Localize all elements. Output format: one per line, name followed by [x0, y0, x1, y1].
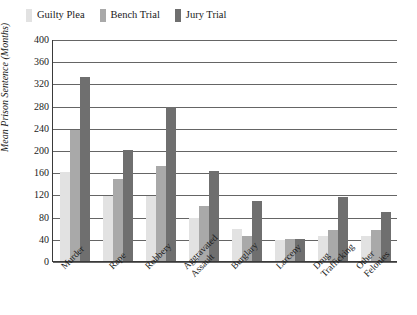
gridline	[53, 262, 397, 263]
x-label-slot: Robbery	[138, 264, 181, 275]
bar	[113, 179, 123, 261]
y-tick-label: 320	[34, 79, 49, 89]
y-tick-label: 400	[34, 35, 49, 45]
legend-label: Jury Trial	[186, 10, 227, 21]
legend-swatch-icon	[175, 9, 181, 22]
legend-item-guilty-plea: Guilty Plea	[26, 9, 85, 22]
x-label-slot: Larceny	[268, 264, 311, 275]
x-label-slot: Rape	[95, 264, 138, 275]
legend-item-jury-trial: Jury Trial	[175, 9, 227, 22]
bar-group	[96, 40, 139, 261]
x-label-slot: Drug Trafficking	[311, 264, 354, 285]
bar-groups	[53, 40, 397, 261]
x-label-slot: Aggravated Assault	[181, 264, 224, 285]
y-tick-label: 80	[39, 213, 49, 223]
y-tick-label: 40	[39, 235, 49, 245]
bar	[60, 172, 70, 261]
y-tick-label: 200	[34, 146, 49, 156]
bar-group	[268, 40, 311, 261]
y-axis-title: Mean Prison Sentence (Months)	[0, 23, 10, 152]
bar	[166, 107, 176, 261]
bar	[70, 130, 80, 261]
x-axis-labels: MurderRapeRobberyAggravated AssaultBurgl…	[52, 264, 397, 315]
y-tick-label: 360	[34, 57, 49, 67]
legend-label: Bench Trial	[111, 10, 160, 21]
y-tick-label: 240	[34, 124, 49, 134]
bar	[80, 77, 90, 261]
bar-chart: Guilty PleaBench TrialJury Trial Mean Pr…	[0, 0, 417, 315]
x-label-slot: Burglary	[225, 264, 268, 275]
y-tick-label: 120	[34, 190, 49, 200]
x-label-slot: Other Felonies	[354, 264, 397, 285]
bar-group	[225, 40, 268, 261]
bar	[103, 196, 113, 261]
bar-group	[53, 40, 96, 261]
bar-group	[311, 40, 354, 261]
y-tick-label: 0	[44, 257, 49, 267]
x-label-slot: Murder	[52, 264, 95, 275]
bar	[123, 150, 133, 261]
y-tick-label: 280	[34, 102, 49, 112]
legend-swatch-icon	[100, 9, 106, 22]
legend-label: Guilty Plea	[37, 10, 85, 21]
legend-swatch-icon	[26, 9, 32, 22]
bar-group	[354, 40, 397, 261]
bar-group	[139, 40, 182, 261]
bar-group	[182, 40, 225, 261]
y-tick-label: 160	[34, 168, 49, 178]
legend-item-bench-trial: Bench Trial	[100, 9, 160, 22]
plot-area: 04080120160200240280320360400	[52, 40, 397, 262]
chart-legend: Guilty PleaBench TrialJury Trial	[26, 9, 226, 22]
